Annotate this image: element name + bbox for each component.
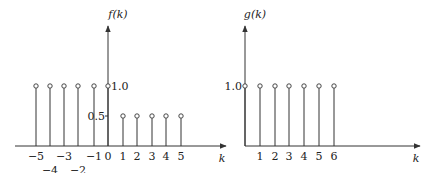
- stem-marker: [273, 84, 277, 88]
- f-y-tick-1.0: 1.0: [111, 80, 129, 93]
- g-y-tick-1.0: 1.0: [225, 80, 243, 93]
- f-y-tick-0.5: 0.5: [88, 110, 106, 123]
- stem-marker: [62, 84, 66, 88]
- stem-marker: [302, 84, 306, 88]
- g-plot: 123456 1.0 g(k) k: [225, 8, 421, 165]
- stem-marker: [287, 84, 291, 88]
- x-tick-label: −3: [56, 150, 72, 163]
- stem-marker: [317, 84, 321, 88]
- stem-marker: [34, 84, 38, 88]
- g-x-tick-labels: 123456: [257, 150, 338, 163]
- g-y-axis-label: g(k): [244, 8, 266, 21]
- x-tick-label: 4: [301, 150, 308, 163]
- g-stems: [243, 84, 336, 146]
- x-tick-label: 5: [316, 150, 323, 163]
- f-x-tick-labels: −5−4−3−2−1012345: [28, 150, 185, 173]
- f-stems: [34, 84, 183, 146]
- g-x-axis-label: k: [413, 152, 420, 165]
- x-tick-label: 1: [257, 150, 264, 163]
- f-plot: −5−4−3−2−1012345 0.5 1.0 f(k) k: [15, 8, 226, 173]
- stem-marker: [332, 84, 336, 88]
- x-tick-label: 4: [163, 150, 170, 163]
- stem-marker: [76, 84, 80, 88]
- stem-marker: [150, 114, 154, 118]
- x-tick-label: 5: [178, 150, 185, 163]
- stem-marker: [243, 84, 247, 88]
- stem-marker: [92, 84, 96, 88]
- x-tick-label: 3: [149, 150, 156, 163]
- x-tick-label: −1: [86, 150, 102, 163]
- x-tick-label: −5: [28, 150, 44, 163]
- f-x-axis-label: k: [219, 152, 226, 165]
- stem-marker: [48, 84, 52, 88]
- f-y-axis-label: f(k): [107, 8, 127, 21]
- stem-marker: [164, 114, 168, 118]
- stem-marker: [179, 114, 183, 118]
- stem-marker: [121, 114, 125, 118]
- x-tick-label: 2: [134, 150, 141, 163]
- x-tick-label: 1: [120, 150, 127, 163]
- x-tick-label: 3: [286, 150, 293, 163]
- stem-marker: [106, 84, 110, 88]
- x-tick-label: 2: [272, 150, 279, 163]
- x-tick-label: 0: [105, 150, 112, 163]
- stem-marker: [258, 84, 262, 88]
- stem-marker: [135, 114, 139, 118]
- x-tick-label: −2: [70, 164, 86, 173]
- x-tick-label: −4: [42, 164, 58, 173]
- x-tick-label: 6: [331, 150, 338, 163]
- stem-plots: −5−4−3−2−1012345 0.5 1.0 f(k) k 123456 1…: [0, 0, 432, 173]
